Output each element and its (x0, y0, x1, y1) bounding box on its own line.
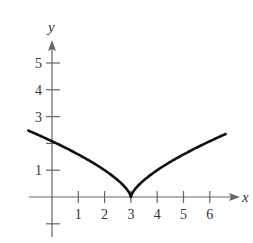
y-tick-label: 5 (35, 56, 42, 71)
x-tick-label: 2 (101, 207, 108, 222)
x-tick-label: 1 (75, 207, 82, 222)
x-tick-label: 5 (180, 207, 187, 222)
y-tick-label: 4 (35, 83, 42, 98)
x-tick-label: 6 (206, 207, 213, 222)
y-tick-label: 3 (35, 110, 42, 125)
function-curve (28, 131, 225, 197)
x-ticks: 123456 (75, 191, 214, 222)
y-axis-label: y (46, 19, 55, 35)
x-tick-label: 4 (154, 207, 161, 222)
y-tick-label: 1 (35, 163, 42, 178)
x-tick-label: 3 (127, 207, 134, 222)
chart-canvas: x y 123456 1345 (0, 0, 253, 243)
x-axis-label: x (241, 189, 249, 205)
